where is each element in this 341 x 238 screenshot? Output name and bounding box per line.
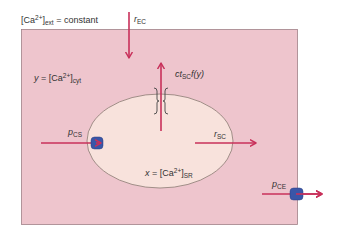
ext-concentration-label: [Ca2+]ext = constant bbox=[21, 15, 98, 27]
ct-sc-label: ctSCf(y) bbox=[175, 70, 204, 81]
p-cs-label: pCS bbox=[68, 128, 82, 139]
r-ec-label: rEC bbox=[134, 15, 146, 26]
p-ce-label: pCE bbox=[272, 180, 286, 191]
r-sc-label: rSC bbox=[214, 130, 226, 141]
calcium-model-diagram bbox=[0, 0, 341, 238]
sr-concentration-label: x = [Ca2+]SR bbox=[145, 168, 193, 180]
cytosol-concentration-label: y = [Ca2+]cyt bbox=[34, 73, 81, 85]
